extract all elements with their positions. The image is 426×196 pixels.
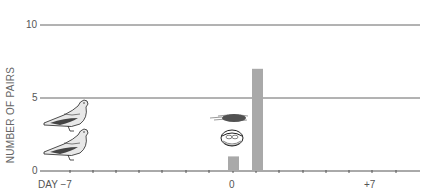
nest-material-icon xyxy=(210,114,248,122)
dove-icon xyxy=(44,100,88,131)
chart-plot-area xyxy=(0,0,426,196)
nest-with-eggs-icon xyxy=(221,130,243,146)
dove-icon xyxy=(44,129,88,160)
bar-day-1 xyxy=(252,69,263,171)
bar-chart: NUMBER OF PAIRS 10 5 0 DAY −7 0 +7 xyxy=(0,0,426,196)
bar-day-0 xyxy=(228,156,239,171)
